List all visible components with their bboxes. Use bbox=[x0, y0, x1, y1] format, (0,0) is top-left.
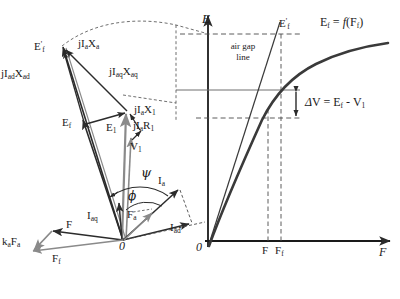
curve-eq-arg-sub: f bbox=[357, 21, 360, 30]
label-ef-prime: E'f bbox=[34, 41, 45, 52]
label-v1-main: V bbox=[130, 140, 138, 152]
dashed-d-axis bbox=[123, 222, 205, 240]
label-jiaxa-sub1: a bbox=[85, 42, 88, 51]
chart-x-axis-label: F bbox=[379, 246, 386, 258]
label-jiadxad-sub2: ad bbox=[23, 72, 30, 81]
label-iad-sub: ad bbox=[174, 226, 181, 235]
curve-eq-arg-close: ) bbox=[359, 15, 363, 29]
label-iad: Iad bbox=[170, 222, 181, 233]
chart-tick-Ff-sub: f bbox=[281, 249, 284, 258]
saturation-curve bbox=[209, 43, 388, 246]
label-ia-sub: a bbox=[162, 179, 165, 188]
label-e1-sub: 1 bbox=[113, 126, 117, 135]
label-chart-ef-prime-main: E bbox=[279, 17, 286, 29]
label-chart-ef-prime-sub: f bbox=[287, 22, 290, 31]
chart-tick-F: F bbox=[262, 245, 268, 256]
label-jiax1-sub2: 1 bbox=[152, 108, 156, 117]
label-jiadxad: jIadXad bbox=[1, 68, 30, 79]
delta-v-glyph: V bbox=[312, 95, 320, 109]
label-fa: Fa bbox=[127, 209, 136, 220]
label-ef-main: E bbox=[62, 116, 69, 128]
label-kafa-sub-a2: a bbox=[17, 240, 20, 249]
label-airgap-line1: air gap bbox=[221, 42, 265, 51]
label-iaq: Iaq bbox=[87, 210, 98, 221]
label-ia: Ia bbox=[158, 175, 165, 186]
label-jiaqxaq-sub2: aq bbox=[131, 70, 138, 79]
label-ef: Ef bbox=[62, 117, 71, 128]
label-v1-sub: 1 bbox=[138, 145, 142, 154]
label-delta-v: ΔV = Ef - V1 bbox=[305, 96, 365, 108]
chart-tick-Ff: Ff bbox=[275, 245, 284, 256]
delta-eq: = E bbox=[321, 95, 341, 109]
label-f-resultant: F bbox=[66, 219, 72, 230]
delta-minus: - V bbox=[343, 95, 361, 109]
label-ef-sub: f bbox=[69, 121, 72, 130]
saturation-chart bbox=[176, 16, 390, 247]
label-f-resultant-main: F bbox=[66, 218, 72, 230]
chart-origin-label: 0 bbox=[196, 241, 202, 253]
delta-sub2: 1 bbox=[362, 101, 366, 110]
dashed-q-axis-segment bbox=[123, 95, 176, 103]
label-jiadxad-sub1: ad bbox=[8, 72, 15, 81]
vector-ff bbox=[33, 240, 123, 251]
label-jiax1: jIaX1 bbox=[134, 104, 156, 115]
delta-glyph: Δ bbox=[305, 95, 312, 109]
label-ef-prime-main: E bbox=[34, 40, 41, 52]
label-jiaqxaq: jIaqXaq bbox=[109, 66, 138, 77]
delta-sub1: f bbox=[341, 101, 344, 110]
label-ff-phasor-sub: f bbox=[58, 257, 61, 266]
curve-eq-arg-open: (F bbox=[346, 15, 357, 29]
label-jiaxa-sub2: a bbox=[96, 42, 99, 51]
label-jiar1-sub2: 1 bbox=[150, 124, 154, 133]
arc-psi bbox=[112, 187, 168, 196]
vector-kafa bbox=[34, 231, 52, 250]
label-fa-sub: a bbox=[133, 213, 136, 222]
phasor-diagram bbox=[33, 21, 205, 251]
label-jiaqxaq-sub1: aq bbox=[116, 70, 123, 79]
label-curve-equation: Ef = f(Ff) bbox=[320, 16, 363, 28]
label-v1: V1 bbox=[130, 141, 142, 152]
vector-jiaxa bbox=[66, 50, 127, 111]
label-ff-phasor: Ff bbox=[52, 253, 61, 264]
curve-eq-lead-sub: f bbox=[327, 21, 330, 30]
label-ef-prime-sub: f bbox=[42, 45, 45, 54]
phasor-origin-label: 0 bbox=[119, 240, 125, 252]
label-phi-angle: ϕ bbox=[128, 190, 136, 202]
label-kafa: kaFa bbox=[2, 236, 20, 247]
curve-eq-sign: = bbox=[330, 15, 343, 29]
figure-root: E'f Ef E1 V1 Ia Iad Iaq Fa F Ff kaFa jIa… bbox=[0, 0, 400, 299]
vector-e1 bbox=[122, 114, 126, 240]
label-psi-angle: ψ bbox=[141, 166, 151, 179]
vector-ef bbox=[83, 120, 123, 240]
label-e1: E1 bbox=[106, 122, 116, 133]
chart-tick-F-label: F bbox=[262, 244, 268, 256]
label-airgap-line2: line bbox=[221, 53, 265, 62]
label-iaq-sub: aq bbox=[91, 214, 98, 223]
label-jiar1: jIaR1 bbox=[133, 120, 154, 131]
label-jiar1-sub1: a bbox=[140, 124, 143, 133]
label-chart-ef-prime: E'f bbox=[279, 18, 290, 29]
label-jiaxa: jIaXa bbox=[78, 38, 99, 49]
label-e1-main: E bbox=[106, 121, 113, 133]
label-kafa-sub-a: a bbox=[8, 240, 11, 249]
vector-f-resultant bbox=[53, 231, 123, 240]
dashed-ia-to-iad bbox=[180, 190, 192, 223]
label-jiax1-sub1: a bbox=[141, 108, 144, 117]
chart-y-axis-label: E bbox=[202, 12, 210, 25]
vector-jiadxad bbox=[64, 52, 84, 122]
